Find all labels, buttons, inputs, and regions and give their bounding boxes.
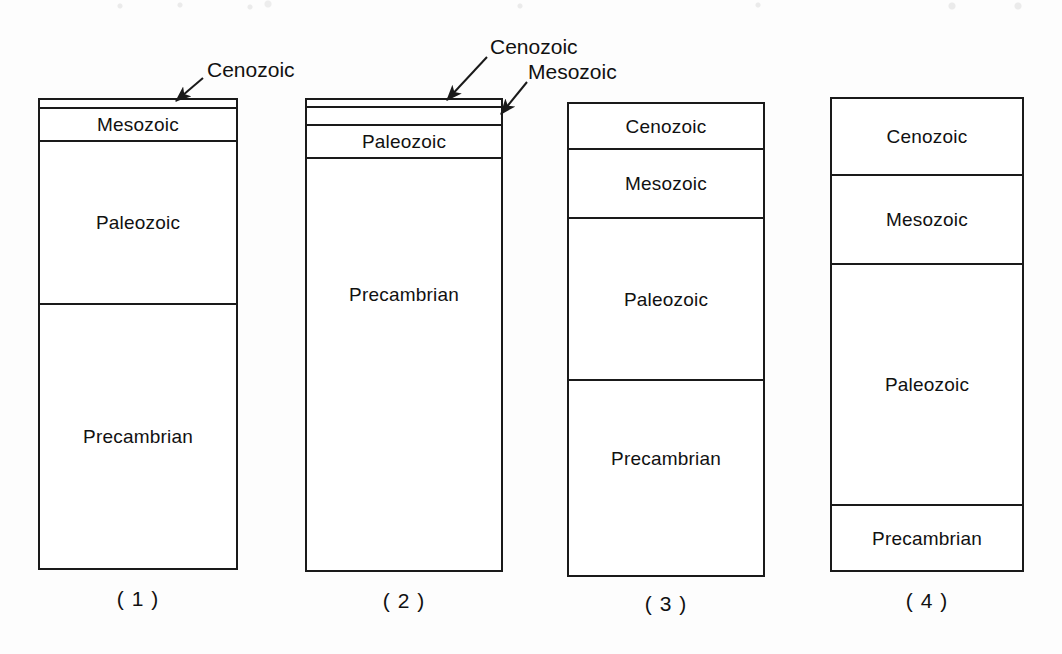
column-3-band-paleozoic: Paleozoic	[569, 219, 763, 381]
column-3: Cenozoic Mesozoic Paleozoic Precambrian	[567, 102, 765, 577]
callout-cenozoic-column-2: Cenozoic	[490, 36, 578, 57]
column-2-band-precambrian: Precambrian	[307, 159, 501, 570]
column-1-band-paleozoic-label: Paleozoic	[96, 213, 180, 232]
column-1-caption: ( 1 )	[38, 587, 238, 611]
column-4-band-cenozoic-label: Cenozoic	[887, 127, 968, 146]
column-3-band-cenozoic-label: Cenozoic	[626, 117, 707, 136]
column-3-band-precambrian: Precambrian	[569, 381, 763, 575]
column-1-band-precambrian: Precambrian	[40, 305, 236, 568]
callout-cenozoic-column-1: Cenozoic	[207, 59, 295, 80]
column-2-band-paleozoic-label: Paleozoic	[362, 132, 446, 151]
column-1-band-mesozoic: Mesozoic	[40, 109, 236, 142]
column-3-band-precambrian-label: Precambrian	[611, 449, 721, 468]
column-2: Paleozoic Precambrian	[305, 98, 503, 572]
column-4-band-precambrian-label: Precambrian	[872, 529, 982, 548]
column-4-band-mesozoic-label: Mesozoic	[886, 210, 968, 229]
column-2-band-mesozoic	[307, 108, 501, 126]
column-3-band-mesozoic-label: Mesozoic	[625, 174, 707, 193]
column-3-band-paleozoic-label: Paleozoic	[624, 290, 708, 309]
column-4-caption: ( 4 )	[830, 589, 1024, 613]
column-1-band-paleozoic: Paleozoic	[40, 142, 236, 305]
column-1-band-mesozoic-label: Mesozoic	[97, 115, 179, 134]
column-4: Cenozoic Mesozoic Paleozoic Precambrian	[830, 97, 1024, 572]
leader-line-mesozoic-column-2	[501, 82, 527, 114]
column-1-band-precambrian-label: Precambrian	[83, 427, 193, 446]
column-3-band-cenozoic: Cenozoic	[569, 104, 763, 150]
leader-line-cenozoic-column-2	[447, 57, 487, 100]
figure-canvas: Mesozoic Paleozoic Precambrian ( 1 ) Pal…	[0, 0, 1062, 654]
column-4-band-paleozoic-label: Paleozoic	[885, 375, 969, 394]
column-3-band-mesozoic: Mesozoic	[569, 150, 763, 219]
column-2-band-precambrian-label: Precambrian	[349, 285, 459, 304]
column-4-band-cenozoic: Cenozoic	[832, 99, 1022, 176]
column-4-band-mesozoic: Mesozoic	[832, 176, 1022, 265]
column-1: Mesozoic Paleozoic Precambrian	[38, 98, 238, 570]
column-2-caption: ( 2 )	[305, 589, 503, 613]
column-2-band-paleozoic: Paleozoic	[307, 126, 501, 159]
callout-mesozoic-column-2: Mesozoic	[528, 61, 617, 82]
column-4-band-paleozoic: Paleozoic	[832, 265, 1022, 506]
column-3-caption: ( 3 )	[567, 592, 765, 616]
column-4-band-precambrian: Precambrian	[832, 506, 1022, 570]
column-2-band-cenozoic	[307, 100, 501, 108]
column-1-band-cenozoic	[40, 100, 236, 109]
scan-artifact	[0, 0, 1062, 14]
